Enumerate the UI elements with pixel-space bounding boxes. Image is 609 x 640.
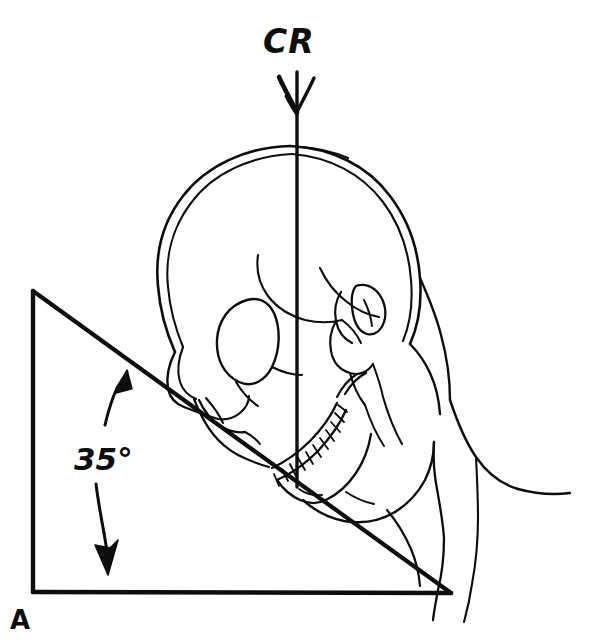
vertex-label: A (10, 605, 30, 635)
positioning-diagram-figure: CR 35° A (0, 0, 609, 640)
wedge-base-side (33, 592, 451, 593)
central-ray-label: CR (263, 22, 315, 61)
angle-label: 35° (74, 441, 133, 477)
diagram-canvas: CR 35° A (0, 0, 609, 640)
